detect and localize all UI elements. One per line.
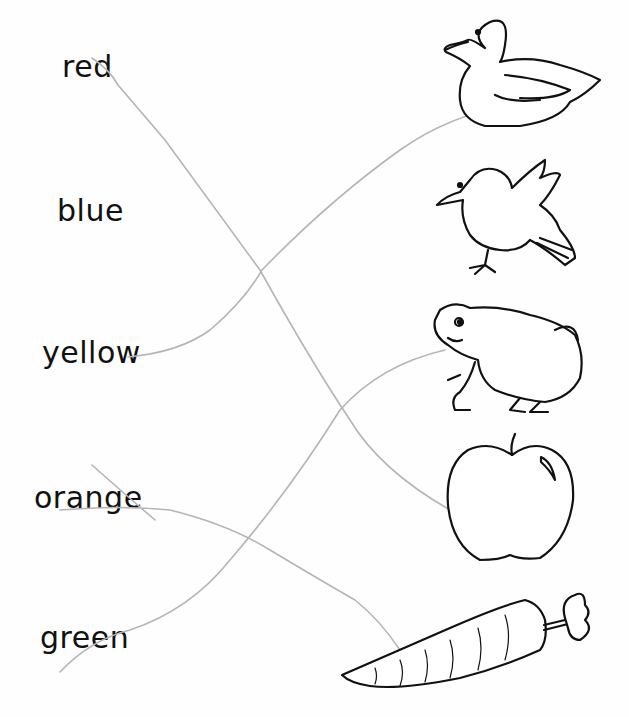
carrot-picture [0,0,629,717]
matching-worksheet: red blue yellow orange green [0,0,629,717]
